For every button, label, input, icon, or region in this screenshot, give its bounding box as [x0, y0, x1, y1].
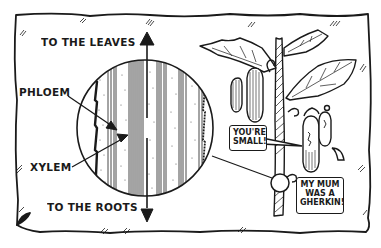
bubble-line: GHERKIN!	[300, 198, 340, 207]
label-xylem: XYLEM	[30, 162, 72, 173]
speech-bubble-my-mum-was-a-gherkin: MY MUM WAS A GHERKIN!	[296, 177, 344, 214]
bubble-line: YOU'RE	[233, 128, 263, 137]
label-to-the-roots: TO THE ROOTS	[47, 202, 138, 213]
label-phloem: PHLOEM	[19, 87, 70, 98]
label-to-the-leaves: TO THE LEAVES	[41, 37, 136, 48]
bubble-line: WAS A	[300, 189, 340, 198]
stem-magnified-section	[77, 55, 213, 200]
bubble-line: SMALL!	[233, 137, 263, 146]
bubble-line: MY MUM	[300, 180, 340, 189]
speech-bubble-youre-small: YOU'RE SMALL!	[229, 125, 267, 151]
